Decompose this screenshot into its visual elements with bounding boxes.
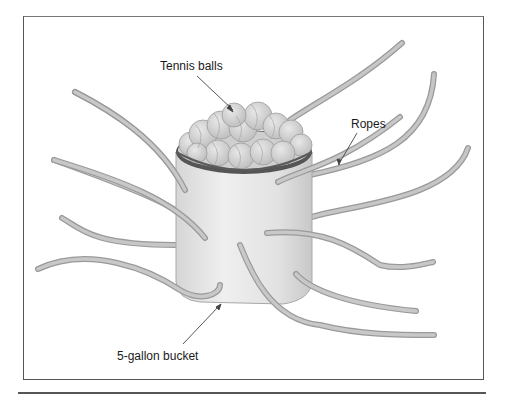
tennis-balls-arrow [197, 76, 233, 110]
arrowhead-icon [337, 159, 341, 165]
bucket-arrow [183, 306, 219, 344]
tennis-balls [179, 102, 312, 169]
tennis-balls-label: Tennis balls [160, 59, 223, 73]
arrowhead-icon [216, 304, 221, 310]
ropes-label: Ropes [351, 117, 386, 131]
bucket-diagram [0, 0, 506, 403]
bucket-label: 5-gallon bucket [117, 349, 198, 363]
